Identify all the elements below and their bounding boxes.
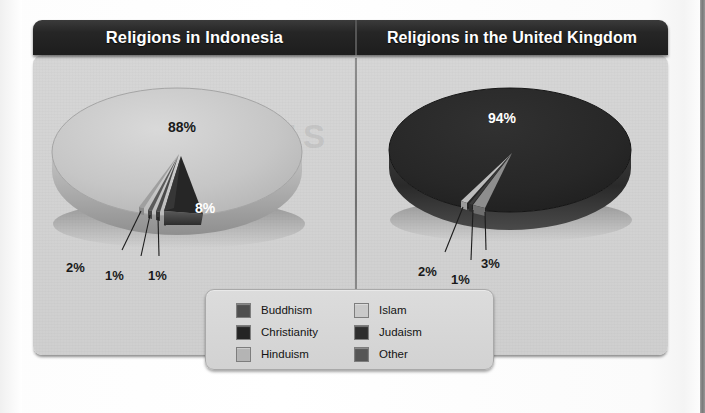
page-left-edge (0, 0, 22, 413)
pie-slice-side-judaism (469, 204, 472, 212)
legend-label-hinduism: Hinduism (261, 348, 309, 360)
legend-swatch-other (354, 347, 369, 362)
title-bar-divider (355, 20, 357, 55)
pie-value-label: 2% (66, 260, 85, 275)
legend-column-left: Buddhism Christianity Hinduism (236, 300, 354, 369)
legend-swatch-hinduism (236, 347, 251, 362)
legend-label-christianity: Christianity (261, 326, 318, 338)
pie-value-label: 8% (195, 200, 215, 216)
legend-swatch-buddhism (236, 303, 251, 318)
legend-item-islam[interactable]: Islam (354, 300, 472, 320)
legend-label-other: Other (379, 348, 408, 360)
legend-swatch-christianity (236, 325, 251, 340)
chart-title-bar-indonesia: Religions in Indonesia (33, 20, 356, 55)
legend-label-islam: Islam (379, 304, 406, 316)
pie-value-label: 1% (451, 272, 470, 287)
pie-value-label: 94% (488, 110, 516, 126)
pie-value-label: 3% (481, 256, 500, 271)
legend-item-judaism[interactable]: Judaism (354, 322, 472, 342)
legend-swatch-judaism (354, 325, 369, 340)
legend-item-other[interactable]: Other (354, 344, 472, 364)
pie-value-label: 2% (418, 264, 437, 279)
legend-label-buddhism: Buddhism (261, 304, 312, 316)
legend-column-right: Islam Judaism Other (354, 300, 472, 369)
chart-title-bar-united-kingdom: Religions in the United Kingdom (356, 20, 668, 55)
page-right-edge-stripe (700, 0, 705, 413)
pie-chart-united-kingdom (385, 74, 635, 236)
pie-value-label: 1% (148, 268, 167, 283)
legend-item-christianity[interactable]: Christianity (236, 322, 354, 342)
pie-slice-side-buddhism (148, 210, 152, 219)
legend-swatch-islam (354, 303, 369, 318)
figure-page: ALAMOPLUS (0, 0, 705, 413)
pie-chart-indonesia (48, 74, 306, 242)
legend-item-buddhism[interactable]: Buddhism (236, 300, 354, 320)
page-title: Religions in Indonesia (106, 28, 283, 47)
legend-item-hinduism[interactable]: Hinduism (236, 344, 354, 364)
chart-legend: Buddhism Christianity Hinduism Islam (205, 289, 494, 370)
legend-label-judaism: Judaism (379, 326, 422, 338)
pie-slice-top-christianity (389, 88, 631, 212)
pie-value-label: 88% (168, 119, 196, 135)
page-title: Religions in the United Kingdom (387, 29, 637, 47)
pie-value-label: 1% (105, 268, 124, 283)
